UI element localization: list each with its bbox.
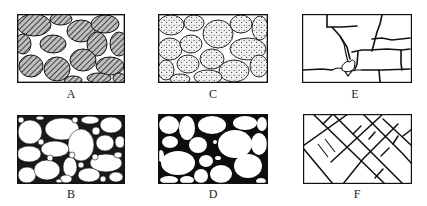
panel-d xyxy=(158,114,268,184)
white-grains-dark-matrix-diagram xyxy=(17,115,125,184)
panel-e xyxy=(302,14,412,83)
panel-a xyxy=(17,14,125,83)
cross-fractures-diagram xyxy=(303,114,412,184)
panel-f xyxy=(303,114,412,184)
panel-label-a: A xyxy=(61,88,81,100)
fractured-blocks-diagram xyxy=(302,14,412,83)
panel-label-c: C xyxy=(203,88,223,100)
white-grains-black-matrix-diagram xyxy=(158,114,268,184)
panel-label-f: F xyxy=(347,188,367,200)
panel-label-d: D xyxy=(203,188,223,200)
panel-b xyxy=(17,115,125,184)
hatched-grains-diagram xyxy=(17,14,125,83)
panel-label-b: B xyxy=(61,188,81,200)
panel-label-e: E xyxy=(345,88,365,100)
panel-c xyxy=(158,14,268,83)
stippled-grains-diagram xyxy=(158,14,268,83)
